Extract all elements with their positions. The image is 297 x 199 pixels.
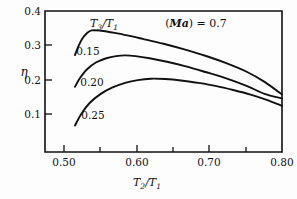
curves bbox=[75, 30, 282, 125]
curve-series-0.15 bbox=[75, 30, 282, 94]
x-axis-label: T2/T1 bbox=[133, 176, 161, 191]
y-axis-ticks bbox=[45, 45, 52, 114]
y-axis-title: η bbox=[20, 65, 28, 79]
curve-labels: 0.15 0.20 0.25 bbox=[76, 45, 104, 121]
y-tick-labels: 0.4 0.3 0.2 0.1 bbox=[24, 5, 41, 120]
efficiency-vs-temperature-ratio-chart: 0.4 0.3 0.2 0.1 0.50 0.60 0.70 0.80 η T2… bbox=[0, 0, 297, 199]
x-tick-labels: 0.50 0.60 0.70 0.80 bbox=[52, 156, 293, 168]
mach-annotation: (Ma) = 0.7 bbox=[165, 17, 227, 30]
mach-value: ) = 0.7 bbox=[189, 17, 227, 30]
x-tick-label-0.60: 0.60 bbox=[125, 156, 148, 168]
mach-number-text: (Ma) = 0.7 bbox=[165, 17, 227, 30]
x-tick-label-0.50: 0.50 bbox=[52, 156, 75, 168]
curve-label-0.25: 0.25 bbox=[81, 109, 104, 121]
x-axis-denominator-subscript: 1 bbox=[156, 182, 161, 191]
mach-symbol: Ma bbox=[168, 17, 188, 30]
x-tick-label-0.70: 0.70 bbox=[197, 156, 220, 168]
curve-label-0.15: 0.15 bbox=[76, 45, 99, 57]
x-axis-title: T2/T1 bbox=[133, 176, 161, 191]
x-tick-label-0.80: 0.80 bbox=[270, 156, 293, 168]
y-tick-label-0.4: 0.4 bbox=[24, 5, 41, 17]
curve-series-0.20 bbox=[75, 55, 282, 98]
key-denominator-subscript: 1 bbox=[113, 23, 118, 32]
chart-figure: 0.4 0.3 0.2 0.1 0.50 0.60 0.70 0.80 η T2… bbox=[0, 0, 297, 199]
y-tick-label-0.1: 0.1 bbox=[24, 108, 41, 120]
y-tick-label-0.3: 0.3 bbox=[24, 39, 41, 51]
curve-label-0.20: 0.20 bbox=[80, 76, 103, 88]
curve-series-0.25 bbox=[75, 79, 282, 126]
x-axis-ticks bbox=[64, 145, 246, 152]
y-axis-label-eta: η bbox=[20, 65, 28, 79]
